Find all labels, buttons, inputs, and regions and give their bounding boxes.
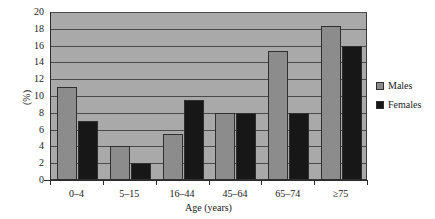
x-tick-label: 0–4 (69, 188, 84, 199)
x-tick-label: 65–74 (275, 188, 300, 199)
x-tick-mark (367, 180, 368, 185)
x-tick-mark (103, 180, 104, 185)
bars-layer (51, 13, 366, 180)
x-tick-mark (209, 180, 210, 185)
y-tick-label: 18 (22, 24, 44, 34)
x-axis-label: Age (years) (50, 202, 367, 213)
x-tick-label: 45–64 (222, 188, 247, 199)
x-tick-mark (156, 180, 157, 185)
bar-males-75 (321, 26, 341, 180)
x-axis-line (44, 180, 368, 181)
legend-entry-males: Males (376, 80, 435, 91)
bar-chart-figure: (%) 02468101214161820 Age (years) MalesF… (0, 0, 435, 219)
y-tick-label: 6 (22, 125, 44, 135)
bar-group (51, 13, 368, 180)
y-tick-label: 4 (22, 141, 44, 151)
y-tick-label: 2 (22, 158, 44, 168)
y-tick-label: 16 (22, 41, 44, 51)
y-tick-label: 12 (22, 74, 44, 84)
y-tick-label: 8 (22, 108, 44, 118)
x-tick-mark (314, 180, 315, 185)
y-tick-label: 10 (22, 91, 44, 101)
legend-swatch-icon (376, 82, 384, 90)
legend-swatch-icon (376, 101, 384, 109)
x-tick-label: 5–15 (119, 188, 139, 199)
chart-legend: MalesFemales (376, 80, 435, 118)
y-tick-label: 20 (22, 7, 44, 17)
legend-label: Males (388, 81, 412, 91)
x-tick-label: ≥75 (333, 188, 349, 199)
x-tick-mark (50, 180, 51, 185)
x-tick-label: 16–44 (170, 188, 195, 199)
x-tick-mark (261, 180, 262, 185)
y-tick-label: 0 (22, 175, 44, 185)
bar-females-75 (342, 46, 362, 180)
y-axis-ticks: 02468101214161820 (22, 12, 44, 180)
legend-label: Females (388, 100, 421, 110)
legend-entry-females: Females (376, 99, 435, 110)
y-tick-label: 14 (22, 57, 44, 67)
